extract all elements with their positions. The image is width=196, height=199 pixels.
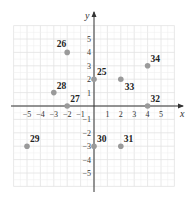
y-tick-label: 2 xyxy=(87,75,91,84)
data-point xyxy=(145,103,151,109)
point-label: 29 xyxy=(30,134,40,144)
data-point xyxy=(118,76,124,82)
point-label: 28 xyxy=(57,81,67,91)
y-tick-label: −1 xyxy=(82,115,91,124)
point-label: 27 xyxy=(70,94,80,104)
y-tick-label: −2 xyxy=(82,129,91,138)
point-label: 31 xyxy=(124,134,134,144)
data-point xyxy=(51,90,57,96)
coordinate-plane: x y −5−4−3−2−112345−5−4−3−2−112345 25262… xyxy=(0,0,196,199)
x-tick-label: 3 xyxy=(132,110,136,119)
x-tick-label: 1 xyxy=(105,110,109,119)
point-label: 26 xyxy=(57,39,67,49)
data-point xyxy=(24,143,30,149)
data-point xyxy=(91,76,97,82)
data-point xyxy=(118,143,124,149)
x-tick-label: −3 xyxy=(50,110,59,119)
y-axis-label: y xyxy=(84,10,90,21)
data-point xyxy=(145,63,151,69)
x-axis-label: x xyxy=(179,108,185,119)
x-tick-label: −4 xyxy=(36,110,45,119)
point-label: 34 xyxy=(151,54,161,64)
x-tick-label: −5 xyxy=(23,110,32,119)
data-point xyxy=(91,143,97,149)
point-label: 32 xyxy=(151,94,161,104)
y-tick-label: 1 xyxy=(87,89,91,98)
x-tick-label: −2 xyxy=(63,110,72,119)
y-tick-label: −4 xyxy=(82,156,91,165)
y-tick-label: 5 xyxy=(87,35,91,44)
y-tick-label: 4 xyxy=(87,48,91,57)
point-label: 33 xyxy=(125,82,135,92)
x-tick-label: 2 xyxy=(119,110,123,119)
point-label: 30 xyxy=(97,134,107,144)
y-tick-label: −5 xyxy=(82,169,91,178)
data-point xyxy=(64,103,70,109)
y-tick-label: −3 xyxy=(82,142,91,151)
y-axis-arrow-icon xyxy=(92,11,97,17)
x-tick-label: 4 xyxy=(146,110,150,119)
y-tick-label: 3 xyxy=(87,62,91,71)
data-point xyxy=(64,50,70,56)
point-label: 25 xyxy=(97,67,107,77)
x-tick-label: 5 xyxy=(159,110,163,119)
